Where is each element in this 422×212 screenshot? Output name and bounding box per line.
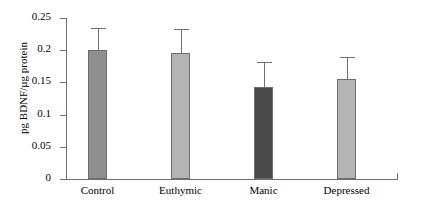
- y-axis-tick-label: 0.25: [32, 10, 51, 22]
- y-axis-tick: 0.2: [60, 50, 66, 51]
- x-axis-label-depressed: Depressed: [307, 184, 387, 196]
- x-axis-label-euthymic: Euthymic: [141, 184, 221, 196]
- bar-depressed: [337, 79, 356, 179]
- error-bar-stem-control: [98, 28, 99, 51]
- y-axis-tick-label: 0: [46, 171, 52, 183]
- x-axis-label-manic: Manic: [224, 184, 304, 196]
- y-axis-tick-label: 0.05: [32, 139, 51, 151]
- error-bar-cap-control: [91, 28, 106, 29]
- bar-control: [88, 50, 107, 179]
- y-axis-tick: 0.25: [60, 18, 66, 19]
- error-bar-stem-euthymic: [181, 29, 182, 53]
- plot-area: 0.250.20.150.10.050 ControlEuthymicManic…: [66, 18, 398, 180]
- x-axis-label-control: Control: [58, 184, 138, 196]
- y-axis-tick: 0.15: [60, 82, 66, 83]
- bar-chart-figure: pg BDNF/µg protein 0.250.20.150.10.050 C…: [0, 0, 422, 212]
- error-bar-cap-euthymic: [174, 29, 189, 30]
- y-axis-tick: 0.05: [60, 147, 66, 148]
- x-axis-end-tick: [397, 173, 398, 180]
- y-axis-tick-label: 0.15: [32, 74, 51, 86]
- y-axis-tick: 0.1: [60, 115, 66, 116]
- bar-euthymic: [171, 53, 190, 179]
- error-bar-stem-depressed: [347, 57, 348, 80]
- x-axis-line: [66, 179, 398, 180]
- error-bar-stem-manic: [264, 62, 265, 86]
- bar-manic: [254, 87, 273, 179]
- y-axis-label: pg BDNF/µg protein: [14, 0, 32, 178]
- y-axis-tick-label: 0.1: [37, 107, 51, 119]
- y-axis-tick: 0: [60, 179, 66, 180]
- y-axis-line: [66, 18, 67, 180]
- error-bar-cap-depressed: [340, 57, 355, 58]
- error-bar-cap-manic: [257, 62, 272, 63]
- y-axis-tick-label: 0.2: [37, 42, 51, 54]
